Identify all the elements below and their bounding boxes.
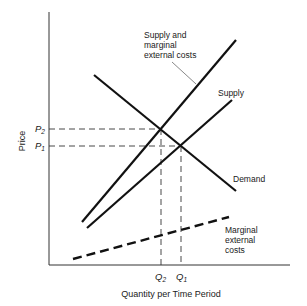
mec-label-line2: external: [225, 235, 255, 245]
supply-mec-label-line1: Supply and: [144, 30, 187, 40]
supply-mec-curve: [82, 40, 236, 222]
x-axis-label: Quantity per Time Period: [121, 289, 221, 299]
p2-label: P2: [35, 123, 45, 135]
y-axis-label: Price: [17, 131, 27, 152]
supply-mec-label-line2: marginal: [144, 40, 177, 50]
supply-mec-leader: [172, 62, 196, 84]
demand-curve: [94, 75, 236, 191]
curves: [73, 40, 236, 259]
mec-label-line1: Marginal: [225, 225, 258, 235]
mec-label-line3: costs: [225, 245, 245, 255]
supply-label: Supply: [218, 88, 245, 98]
demand-label: Demand: [233, 174, 265, 184]
supply-mec-label-line3: external costs: [144, 50, 196, 60]
q2-label: Q2: [155, 271, 166, 283]
mec-label: Marginal external costs: [225, 225, 260, 255]
supply-mec-label: Supply and marginal external costs: [144, 30, 196, 60]
p1-label: P1: [35, 140, 45, 152]
price-marks: P2 P1: [35, 123, 45, 152]
externality-diagram: Price Quantity per Time Period Supply an…: [0, 0, 307, 306]
q1-label: Q1: [176, 271, 187, 283]
supply-curve: [87, 100, 232, 228]
quantity-marks: Q2 Q1: [155, 271, 187, 283]
mec-curve: [73, 217, 229, 259]
reference-lines: [49, 129, 181, 265]
